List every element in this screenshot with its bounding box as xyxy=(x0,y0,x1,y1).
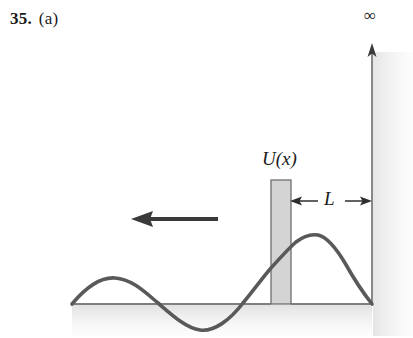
potential-barrier xyxy=(271,180,291,304)
ground-shading xyxy=(72,305,372,336)
well-width-label: L xyxy=(324,188,335,210)
potential-well-diagram xyxy=(0,0,413,338)
infinity-label: ∞ xyxy=(364,6,376,26)
potential-label: U(x) xyxy=(262,148,297,170)
arrow-left-icon xyxy=(131,211,218,227)
physics-figure: 35.(a) xyxy=(0,0,413,338)
wall-shading xyxy=(373,52,413,336)
